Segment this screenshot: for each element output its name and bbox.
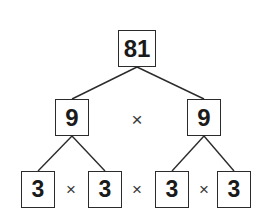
multiply-icon-middle: × xyxy=(128,110,146,129)
edge-9left-to-3a xyxy=(38,136,72,171)
edge-9right-to-3c xyxy=(172,136,204,171)
node-3-d: 3 xyxy=(217,171,251,208)
edge-81-to-9-left xyxy=(72,67,137,99)
node-3-b: 3 xyxy=(88,171,122,208)
node-9-right: 9 xyxy=(187,99,221,136)
multiply-icon-bottom-1: × xyxy=(62,181,80,198)
edge-9right-to-3d xyxy=(204,136,234,171)
node-3-a: 3 xyxy=(21,171,55,208)
multiply-icon-bottom-3: × xyxy=(195,181,213,198)
node-9-left: 9 xyxy=(55,99,89,136)
edge-9left-to-3b xyxy=(72,136,105,171)
factor-tree-diagram: 81 9 × 9 3 × 3 × 3 × 3 xyxy=(0,0,256,219)
node-81: 81 xyxy=(118,30,156,67)
multiply-icon-bottom-2: × xyxy=(128,181,146,198)
node-3-c: 3 xyxy=(155,171,189,208)
edge-81-to-9-right xyxy=(137,67,204,99)
